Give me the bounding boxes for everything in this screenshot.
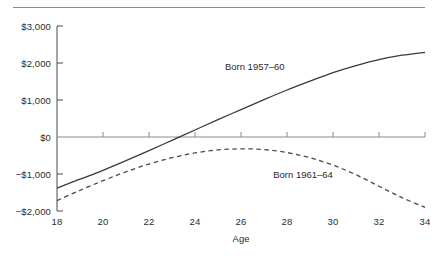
series-label-born-1957-60: Born 1957–60 bbox=[225, 61, 285, 72]
x-axis-ticks bbox=[103, 132, 425, 137]
x-axis-tick-label: 28 bbox=[282, 216, 293, 227]
x-axis-tick-label: 30 bbox=[328, 216, 339, 227]
chart-figure: −$2,000−$1,000$0$1,000$2,000$3,000 18202… bbox=[0, 0, 437, 264]
chart-axes bbox=[57, 26, 425, 211]
series-line-born-1957-60 bbox=[57, 52, 425, 188]
x-axis-tick-label: 20 bbox=[98, 216, 109, 227]
x-axis-tick-label: 18 bbox=[52, 216, 63, 227]
y-axis-tick-label: $1,000 bbox=[0, 95, 51, 106]
y-axis-tick-label: −$2,000 bbox=[0, 206, 51, 217]
x-axis-tick-label: 32 bbox=[374, 216, 385, 227]
chart-series-lines bbox=[57, 52, 425, 207]
x-axis-tick-label: 22 bbox=[144, 216, 155, 227]
x-axis-tick-label: 34 bbox=[420, 216, 431, 227]
chart-plot-area bbox=[0, 0, 437, 264]
series-line-born-1961-64 bbox=[57, 149, 425, 207]
y-axis-tick-label: $3,000 bbox=[0, 21, 51, 32]
y-axis-ticks bbox=[57, 26, 63, 211]
series-label-born-1961-64: Born 1961–64 bbox=[273, 169, 333, 180]
y-axis-tick-label: $2,000 bbox=[0, 58, 51, 69]
y-axis-tick-label: $0 bbox=[0, 132, 51, 143]
x-axis-tick-label: 24 bbox=[190, 216, 201, 227]
x-axis-tick-label: 26 bbox=[236, 216, 247, 227]
y-axis-tick-label: −$1,000 bbox=[0, 169, 51, 180]
x-axis-title: Age bbox=[233, 233, 250, 244]
